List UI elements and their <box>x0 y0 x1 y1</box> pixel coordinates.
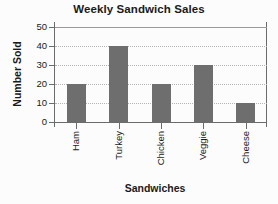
y-axis-title-text: Number Sold <box>11 41 23 106</box>
y-tick-label-10: 10 <box>25 98 47 108</box>
bar-ham <box>67 84 86 122</box>
gridline-30 <box>55 65 267 66</box>
bar-turkey <box>109 46 128 122</box>
x-tick-veggie <box>203 122 204 129</box>
y-tick-label-0: 0 <box>25 117 47 127</box>
x-category-label-ham: Ham <box>70 131 82 181</box>
x-tick-ham <box>76 122 77 129</box>
x-axis-title: Sandwiches <box>40 182 270 194</box>
x-category-label-cheese: Cheese <box>240 131 252 181</box>
y-tick-label-20: 20 <box>25 79 47 89</box>
y-tick-0 <box>49 122 55 123</box>
gridline-50 <box>55 27 267 28</box>
x-category-label-veggie: Veggie <box>197 131 209 181</box>
y-tick-label-30: 30 <box>25 60 47 70</box>
bar-veggie <box>194 65 213 122</box>
x-category-label-text: Cheese <box>241 131 251 164</box>
x-tick-turkey <box>119 122 120 129</box>
x-category-label-text: Ham <box>71 131 81 151</box>
gridline-40 <box>55 46 267 47</box>
x-category-label-chicken: Chicken <box>155 131 167 181</box>
y-axis-title: Number Sold <box>9 24 25 124</box>
x-category-label-text: Chicken <box>156 131 166 165</box>
bar-chicken <box>152 84 171 122</box>
x-tick-chicken <box>161 122 162 129</box>
y-tick-label-50: 50 <box>25 22 47 32</box>
x-tick-cheese <box>246 122 247 129</box>
y-tick-label-40: 40 <box>25 41 47 51</box>
x-category-label-text: Veggie <box>199 131 209 160</box>
plot-area <box>55 27 267 122</box>
bar-chart: Weekly Sandwich Sales Number Sold 010203… <box>0 0 278 204</box>
x-category-label-turkey: Turkey <box>113 131 125 181</box>
chart-title: Weekly Sandwich Sales <box>0 3 278 15</box>
x-category-label-text: Turkey <box>114 131 124 160</box>
bar-cheese <box>236 103 255 122</box>
